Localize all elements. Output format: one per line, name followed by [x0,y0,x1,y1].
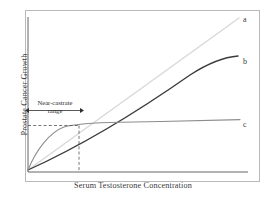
curve-c [28,120,240,170]
curve-label-c: c [243,120,247,129]
y-axis-title: Prostate Cancer Growth [20,30,29,160]
curve-label-b: b [243,57,247,66]
curve-label-a: a [243,15,247,24]
x-axis-title: Serum Testosterone Concentration [28,181,238,190]
figure-container: Prostate Cancer Growth Serum Testosteron… [0,0,270,198]
annotation-line-1: Near-castrate [29,99,81,107]
annotation-line-2: range [29,107,81,115]
curve-a [28,18,239,170]
near-castrate-range-annotation: Near-castrate range [29,99,81,115]
